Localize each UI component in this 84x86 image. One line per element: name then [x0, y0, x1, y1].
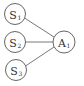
node-s2-label: S: [9, 37, 17, 50]
node-s3: S 3: [6, 60, 27, 81]
svg-text:S: S: [10, 65, 18, 78]
edge-s3-a1: [26, 47, 55, 66]
svg-text:1: 1: [67, 42, 71, 49]
node-s3-label: S: [10, 65, 18, 78]
node-s1: S 1: [5, 4, 26, 25]
edge-s1-a1: [25, 18, 55, 37]
node-s3-subscript: 3: [19, 70, 23, 77]
svg-text:1: 1: [18, 14, 22, 21]
node-s2: S 2: [5, 32, 26, 53]
svg-text:3: 3: [19, 70, 23, 77]
svg-text:A: A: [57, 37, 67, 50]
svg-text:2: 2: [18, 42, 22, 49]
node-s2-subscript: 2: [18, 42, 22, 49]
node-a1-label: A: [57, 37, 67, 50]
edges: [25, 18, 55, 66]
node-a1-subscript: 1: [67, 42, 71, 49]
svg-text:S: S: [9, 37, 17, 50]
bipartite-diagram: S 1 S 2 S 3 A 1: [0, 0, 84, 86]
node-s1-label: S: [9, 9, 17, 22]
node-s1-subscript: 1: [18, 14, 22, 21]
svg-text:S: S: [9, 9, 17, 22]
node-a1: A 1: [53, 31, 75, 53]
